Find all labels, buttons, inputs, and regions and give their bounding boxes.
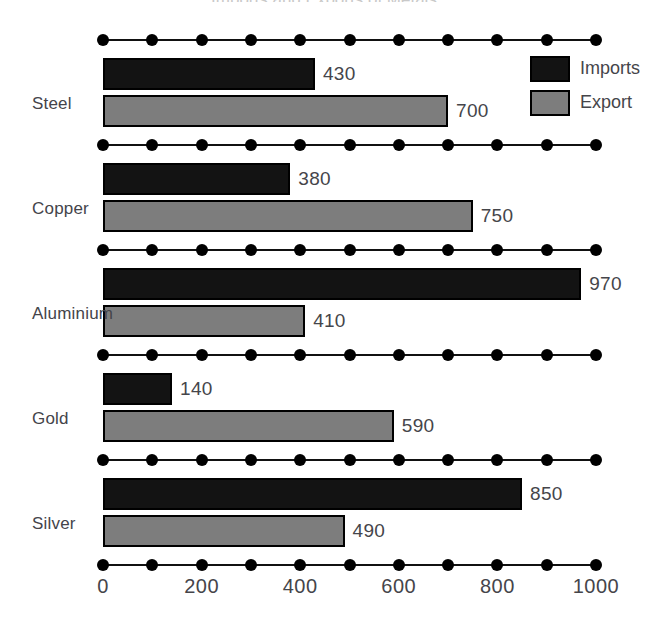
- axis-tick-dot: [541, 349, 553, 361]
- x-tick-label-200: 200: [184, 575, 219, 598]
- axis-rail: [97, 244, 602, 256]
- axis-tick-dot: [541, 34, 553, 46]
- bar-gold-imports[interactable]: [103, 373, 172, 405]
- axis-rail: [97, 139, 602, 151]
- x-tick-label-600: 600: [381, 575, 416, 598]
- x-tick-label-800: 800: [480, 575, 515, 598]
- axis-tick-dot: [393, 559, 405, 571]
- axis-tick-dot: [541, 559, 553, 571]
- legend-item-export[interactable]: Export: [530, 90, 642, 120]
- axis-tick-dot: [97, 34, 109, 46]
- axis-tick-dot: [294, 559, 306, 571]
- axis-tick-dot: [245, 454, 257, 466]
- legend-item-imports[interactable]: Imports: [530, 56, 642, 86]
- bar-silver-export[interactable]: [103, 515, 345, 547]
- bar-value-gold-export: 590: [402, 415, 435, 437]
- axis-tick-dot: [245, 34, 257, 46]
- bar-value-copper-imports: 380: [298, 168, 331, 190]
- axis-tick-dot: [590, 454, 602, 466]
- x-tick-label-1000: 1000: [573, 575, 620, 598]
- bar-copper-imports[interactable]: [103, 163, 290, 195]
- bar-steel-export[interactable]: [103, 95, 448, 127]
- chart-legend: Imports Export: [530, 56, 642, 124]
- bar-aluminium-imports[interactable]: [103, 268, 581, 300]
- axis-tick-dot: [541, 244, 553, 256]
- bar-value-steel-export: 700: [456, 100, 489, 122]
- axis-tick-dot: [196, 349, 208, 361]
- bar-value-gold-imports: 140: [180, 378, 213, 400]
- bar-value-copper-export: 750: [481, 205, 514, 227]
- axis-tick-dot: [442, 244, 454, 256]
- axis-tick-dot: [344, 34, 356, 46]
- legend-label-export: Export: [580, 92, 632, 113]
- bar-gold-export[interactable]: [103, 410, 394, 442]
- axis-tick-dot: [146, 349, 158, 361]
- axis-tick-dot: [294, 34, 306, 46]
- axis-tick-dot: [97, 454, 109, 466]
- axis-tick-dot: [442, 139, 454, 151]
- axis-rail: [97, 34, 602, 46]
- category-label-aluminium: Aluminium: [0, 304, 93, 324]
- axis-tick-dot: [146, 139, 158, 151]
- axis-tick-dot: [146, 559, 158, 571]
- axis-tick-dot: [97, 559, 109, 571]
- x-tick-label-0: 0: [97, 575, 109, 598]
- axis-tick-dot: [442, 349, 454, 361]
- axis-tick-dot: [344, 454, 356, 466]
- axis-tick-dot: [245, 139, 257, 151]
- axis-tick-dot: [196, 244, 208, 256]
- bar-aluminium-export[interactable]: [103, 305, 305, 337]
- category-label-copper: Copper: [0, 199, 93, 219]
- axis-tick-dot: [393, 349, 405, 361]
- bar-value-aluminium-export: 410: [313, 310, 346, 332]
- axis-tick-dot: [196, 454, 208, 466]
- axis-tick-dot: [541, 139, 553, 151]
- axis-tick-dot: [442, 34, 454, 46]
- axis-tick-dot: [245, 559, 257, 571]
- axis-tick-dot: [344, 349, 356, 361]
- bar-value-steel-imports: 430: [323, 63, 356, 85]
- axis-tick-dot: [294, 244, 306, 256]
- bar-silver-imports[interactable]: [103, 478, 522, 510]
- axis-tick-dot: [196, 34, 208, 46]
- axis-tick-dot: [146, 454, 158, 466]
- bar-value-silver-imports: 850: [530, 483, 563, 505]
- axis-tick-dot: [294, 454, 306, 466]
- axis-tick-dot: [97, 349, 109, 361]
- axis-tick-dot: [491, 559, 503, 571]
- axis-tick-dot: [146, 34, 158, 46]
- axis-tick-dot: [196, 559, 208, 571]
- axis-tick-dot: [97, 139, 109, 151]
- bar-value-silver-export: 490: [353, 520, 386, 542]
- bar-copper-export[interactable]: [103, 200, 473, 232]
- axis-tick-dot: [344, 139, 356, 151]
- chart-title: Imports and Exports of Metals: [0, 0, 648, 2]
- axis-tick-dot: [294, 349, 306, 361]
- axis-tick-dot: [344, 244, 356, 256]
- category-label-silver: Silver: [0, 514, 93, 534]
- axis-tick-dot: [590, 244, 602, 256]
- axis-tick-dot: [541, 454, 553, 466]
- bar-chart: Imports and Exports of Metals 430700Stee…: [0, 0, 648, 632]
- category-label-steel: Steel: [0, 94, 93, 114]
- legend-swatch-export: [530, 90, 570, 116]
- axis-tick-dot: [491, 244, 503, 256]
- legend-swatch-imports: [530, 56, 570, 82]
- axis-tick-dot: [393, 34, 405, 46]
- bar-steel-imports[interactable]: [103, 58, 315, 90]
- axis-tick-dot: [146, 244, 158, 256]
- axis-rail: [97, 349, 602, 361]
- axis-rail: [97, 559, 602, 571]
- axis-tick-dot: [590, 559, 602, 571]
- axis-tick-dot: [590, 349, 602, 361]
- axis-tick-dot: [344, 559, 356, 571]
- legend-label-imports: Imports: [580, 58, 640, 79]
- axis-rail: [97, 454, 602, 466]
- axis-tick-dot: [393, 244, 405, 256]
- axis-tick-dot: [97, 244, 109, 256]
- axis-tick-dot: [245, 244, 257, 256]
- axis-tick-dot: [393, 139, 405, 151]
- category-label-gold: Gold: [0, 409, 93, 429]
- axis-tick-dot: [245, 349, 257, 361]
- axis-tick-dot: [491, 349, 503, 361]
